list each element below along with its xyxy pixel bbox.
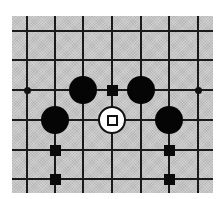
- square-marker: [50, 174, 61, 185]
- star-point: [24, 87, 31, 94]
- square-marker-outline: [107, 115, 118, 126]
- go-board: [12, 16, 213, 193]
- black-stone: [155, 106, 183, 134]
- black-stone: [127, 76, 155, 104]
- grid-line-vertical: [54, 16, 56, 193]
- grid-line-vertical: [111, 16, 113, 193]
- grid-line-vertical: [168, 16, 170, 193]
- grid-line-vertical: [82, 16, 84, 193]
- square-marker: [164, 174, 175, 185]
- black-stone: [41, 106, 69, 134]
- square-marker: [164, 145, 175, 156]
- black-stone: [69, 76, 97, 104]
- star-point: [195, 87, 202, 94]
- grid-line-vertical: [140, 16, 142, 193]
- square-marker: [50, 145, 61, 156]
- grid-line-vertical: [197, 16, 199, 193]
- grid-line-vertical: [26, 16, 28, 193]
- square-marker: [107, 85, 118, 96]
